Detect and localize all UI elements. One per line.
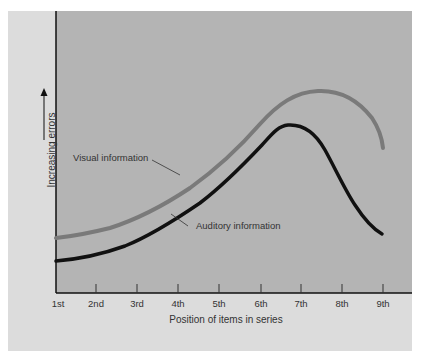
x-tick-label: 1st <box>52 298 65 309</box>
y-axis-label: Increasing errors <box>46 112 57 187</box>
x-tick-label: 2nd <box>88 298 104 309</box>
x-tick-label: 9th <box>376 298 389 309</box>
visual-leader-line <box>152 160 180 175</box>
x-tick-label: 3rd <box>130 298 144 309</box>
x-tick-label: 8th <box>335 298 348 309</box>
x-tick-label: 7th <box>294 298 307 309</box>
x-ticks <box>96 284 383 293</box>
x-tick-label: 5th <box>212 298 225 309</box>
series-auditory-line <box>56 125 382 261</box>
x-tick-label: 4th <box>171 298 184 309</box>
x-axis-label: Position of items in series <box>0 314 422 325</box>
visual-series-label: Visual information <box>73 152 148 163</box>
x-tick-label: 6th <box>254 298 267 309</box>
auditory-series-label: Auditory information <box>196 220 280 231</box>
